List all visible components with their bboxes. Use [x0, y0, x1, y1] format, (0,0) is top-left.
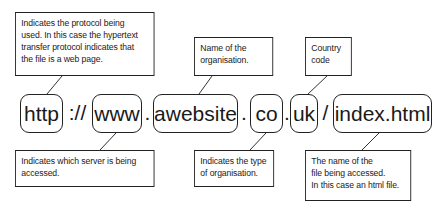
url-slash: / [318, 94, 333, 133]
callout-text-line: of organisation. [200, 167, 267, 179]
callout-text-line: In this case an html file. [311, 179, 405, 191]
callout-server: Indicates which server is being accessed… [15, 150, 155, 187]
callout-text-line: file being accessed. [311, 167, 405, 179]
callout-text-line: code [311, 54, 345, 66]
url-country: uk [290, 94, 318, 133]
callout-text-line: transfer protocol indicates that [21, 41, 148, 53]
callout-text-line: the file is a web page. [21, 53, 148, 65]
callout-text-line: organisation. [200, 54, 267, 66]
callout-text-line: used. In this case the hypertext [21, 29, 148, 41]
url-organisation: awebsite [153, 94, 238, 133]
url-dot: . [238, 94, 250, 133]
callout-organisation: Name of the organisation. [194, 37, 273, 76]
callout-text-line: Country [311, 42, 345, 54]
url-dot: . [142, 94, 153, 133]
callout-text-line: Indicates which server is being [21, 155, 148, 167]
callout-country: Country code [305, 37, 352, 76]
url-org-type: co [250, 94, 283, 133]
url-file: index.html [333, 94, 432, 133]
callout-text-line: Indicates the type [200, 155, 267, 167]
url-protocol: http [20, 94, 63, 133]
callout-text-line: Indicates the protocol being [21, 17, 148, 29]
callout-text-line: accessed. [21, 167, 148, 179]
callout-text-line: Name of the [200, 42, 267, 54]
url-separator-colon-slashes: :// [64, 94, 91, 133]
callout-file: The name of the file being accessed. In … [305, 150, 411, 201]
callout-text-line: The name of the [311, 155, 405, 167]
callout-org-type: Indicates the type of organisation. [194, 150, 274, 187]
callout-protocol: Indicates the protocol being used. In th… [15, 12, 155, 76]
url-server: www [92, 94, 142, 133]
